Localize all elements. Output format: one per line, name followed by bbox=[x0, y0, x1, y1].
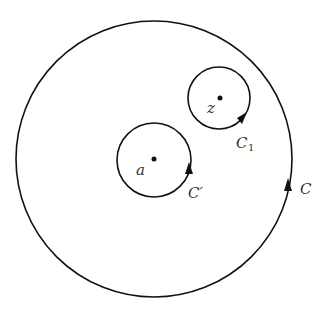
point-a bbox=[152, 157, 157, 162]
point-z bbox=[218, 96, 223, 101]
arrow-c-prime-icon bbox=[185, 162, 193, 174]
label-a: a bbox=[136, 161, 145, 179]
label-c: C bbox=[300, 180, 312, 198]
label-z: z bbox=[206, 99, 215, 117]
label-c1: C bbox=[236, 134, 248, 152]
label-c1-subscript: 1 bbox=[248, 142, 254, 153]
contour-diagram: C a C′ z C 1 bbox=[0, 0, 331, 319]
label-c-prime: C′ bbox=[188, 184, 203, 202]
